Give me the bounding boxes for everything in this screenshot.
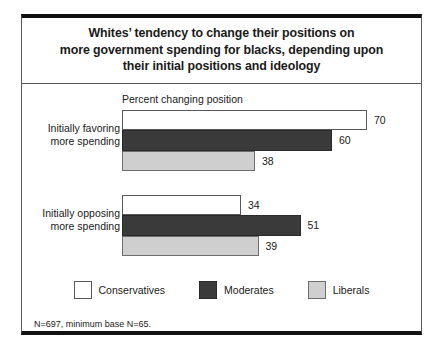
chart-title-line-2: more government spending for blacks, dep…: [36, 42, 407, 59]
bar-value-liberals-0: 38: [262, 155, 274, 167]
bar-moderates-1[interactable]: [122, 215, 301, 236]
category-label-1-line-2: more spending: [28, 220, 120, 233]
bars-group-0: 70 60 38: [122, 110, 421, 172]
legend-label-conservatives: Conservatives: [99, 284, 166, 296]
category-label-1-line-1: Initially opposing: [28, 207, 120, 220]
bar-group-initially-favoring: Initially favoring more spending 70 60 3…: [22, 110, 421, 172]
chart-title: Whites’ tendency to change their positio…: [22, 18, 421, 84]
bar-row-liberals-1: 39: [122, 236, 421, 257]
bar-moderates-0[interactable]: [122, 130, 332, 151]
x-axis-label: Percent changing position: [122, 93, 243, 105]
category-label-0: Initially favoring more spending: [28, 122, 120, 148]
chart-footnote: N=697, minimum base N=65.: [34, 319, 151, 329]
legend-item-moderates[interactable]: Moderates: [199, 281, 274, 299]
bar-row-moderates-1: 51: [122, 215, 421, 236]
chart-title-line-3: their initial positions and ideology: [36, 58, 407, 75]
legend-label-liberals: Liberals: [333, 284, 370, 296]
legend-item-liberals[interactable]: Liberals: [308, 281, 370, 299]
category-label-0-line-2: more spending: [28, 135, 120, 148]
bar-row-moderates-0: 60: [122, 130, 421, 151]
bar-conservatives-0[interactable]: [122, 110, 367, 131]
bar-value-conservatives-1: 34: [248, 199, 260, 211]
bar-value-conservatives-0: 70: [374, 114, 386, 126]
bar-value-moderates-0: 60: [339, 134, 351, 146]
legend-label-moderates: Moderates: [224, 284, 274, 296]
legend-item-conservatives[interactable]: Conservatives: [74, 281, 166, 299]
chart-legend: Conservatives Moderates Liberals: [22, 281, 421, 299]
category-label-0-line-1: Initially favoring: [28, 122, 120, 135]
bars-group-1: 34 51 39: [122, 195, 421, 257]
bar-liberals-0[interactable]: [122, 151, 255, 172]
bar-row-conservatives-1: 34: [122, 195, 421, 216]
bar-value-liberals-1: 39: [266, 240, 278, 252]
chart-title-line-1: Whites’ tendency to change their positio…: [36, 25, 407, 42]
bar-row-conservatives-0: 70: [122, 110, 421, 131]
bar-liberals-1[interactable]: [122, 236, 259, 257]
bar-group-initially-opposing: Initially opposing more spending 34 51 3…: [22, 195, 421, 257]
category-label-1: Initially opposing more spending: [28, 207, 120, 233]
legend-swatch-moderates: [199, 281, 217, 299]
legend-swatch-conservatives: [74, 281, 92, 299]
bar-value-moderates-1: 51: [308, 219, 320, 231]
plot-area: Percent changing position Initially favo…: [22, 84, 421, 336]
chart-figure-panel: Whites’ tendency to change their positio…: [21, 14, 422, 335]
legend-swatch-liberals: [308, 281, 326, 299]
bar-conservatives-1[interactable]: [122, 195, 241, 216]
bar-row-liberals-0: 38: [122, 151, 421, 172]
